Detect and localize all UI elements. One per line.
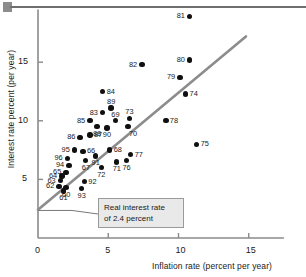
annotation-line-2: of 2.4 percent: [104, 213, 178, 224]
data-point: [177, 75, 182, 80]
data-point-label: 72: [97, 170, 105, 179]
data-point-label: 90: [103, 130, 111, 139]
data-point: [183, 91, 188, 96]
data-point-label: 95: [62, 145, 70, 154]
data-point: [187, 57, 192, 62]
y-tick-label: 5: [22, 173, 27, 183]
data-point: [77, 135, 82, 140]
data-point-label: 85: [77, 116, 85, 125]
data-point-label: 61: [59, 193, 67, 202]
data-point: [72, 147, 77, 152]
data-point-label: 79: [167, 72, 175, 81]
data-point: [66, 163, 71, 168]
x-tick-label: 5: [105, 245, 110, 255]
y-tick-label: 15: [18, 56, 28, 66]
data-point-label: 89: [107, 97, 115, 106]
data-point-label: 67: [82, 163, 90, 172]
data-point: [80, 149, 85, 154]
data-point: [139, 62, 144, 67]
x-tick-label: 15: [246, 245, 256, 255]
data-point-label: 75: [201, 139, 209, 148]
data-point-label: 92: [88, 177, 96, 186]
x-tick-label: 10: [176, 245, 186, 255]
x-tick-label: 0: [35, 245, 40, 255]
figure-container: 8180827974848983736985787088908786756866…: [0, 0, 306, 277]
data-point-label: 62: [46, 181, 54, 190]
data-point-label: 81: [177, 11, 185, 20]
data-point-label: 83: [90, 108, 98, 117]
x-axis-title: Inflation rate (percent per year): [152, 261, 272, 271]
data-point-label: 80: [177, 55, 185, 64]
data-point-label: 78: [170, 116, 178, 125]
y-tick-label: 10: [18, 115, 28, 125]
data-point: [127, 116, 132, 121]
data-point-label: 73: [125, 107, 133, 116]
data-point-label: 86: [67, 132, 75, 141]
data-point-label: 71: [113, 164, 121, 173]
data-point-label: 87: [94, 130, 102, 139]
data-point-label: 74: [190, 89, 198, 98]
data-point-label: 69: [111, 110, 119, 119]
data-point-label: 84: [107, 87, 115, 96]
data-point: [163, 118, 168, 123]
data-point: [87, 132, 92, 137]
data-point-label: 93: [78, 191, 86, 200]
scatter-plot-canvas: [0, 0, 306, 277]
annotation-line-1: Real interest rate: [104, 202, 178, 213]
annotation-callout: Real interest rate of 2.4 percent: [98, 198, 184, 228]
y-axis-title: Interest rate percent (per year): [6, 44, 16, 174]
data-point-label: 70: [129, 129, 137, 138]
data-point-label: 76: [123, 163, 131, 172]
data-point-label: 68: [114, 145, 122, 154]
annotation-leader-line: [39, 210, 98, 214]
data-point-label: 77: [135, 150, 143, 159]
data-point-label: 82: [129, 60, 137, 69]
